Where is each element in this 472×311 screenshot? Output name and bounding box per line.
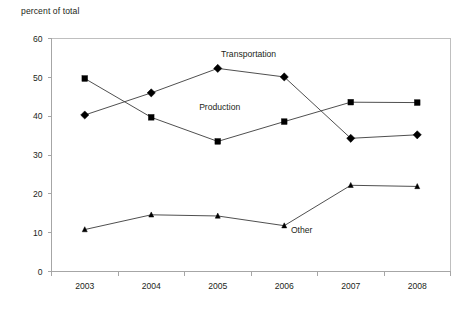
- data-point-transportation: [81, 111, 89, 119]
- series-line-production: [85, 79, 418, 142]
- y-tick-label: 20: [33, 189, 43, 199]
- data-point-production: [348, 99, 354, 105]
- y-tick-label: 40: [33, 111, 43, 121]
- series-line-transportation: [85, 68, 418, 138]
- data-point-production: [82, 76, 88, 82]
- x-axis-ticks: 200320042005200620072008: [52, 272, 451, 291]
- plot-area-border: [52, 39, 451, 272]
- x-tick-label: 2006: [275, 281, 294, 291]
- y-tick-label: 30: [33, 150, 43, 160]
- x-tick-label: 2004: [142, 281, 161, 291]
- data-point-production: [414, 100, 420, 106]
- series-line-other: [85, 185, 418, 229]
- y-tick-label: 60: [33, 34, 43, 44]
- data-point-transportation: [214, 64, 222, 72]
- y-axis-ticks: 0102030405060: [33, 34, 52, 277]
- series-annotation: Production: [199, 102, 240, 112]
- x-tick-label: 2008: [408, 281, 427, 291]
- series-markers: [81, 64, 422, 231]
- y-tick-label: 50: [33, 73, 43, 83]
- series-annotation: Other: [291, 225, 313, 235]
- y-axis-title: percent of total: [21, 6, 79, 16]
- data-point-transportation: [147, 89, 155, 97]
- y-tick-label: 10: [33, 228, 43, 238]
- y-tick-label: 0: [38, 267, 43, 277]
- x-tick-label: 2003: [75, 281, 94, 291]
- series-lines: [85, 68, 418, 229]
- x-tick-label: 2007: [341, 281, 360, 291]
- data-point-production: [215, 139, 221, 145]
- data-point-transportation: [413, 131, 421, 139]
- chart-container: percent of total 0102030405060 200320042…: [0, 0, 472, 311]
- data-point-production: [281, 119, 287, 125]
- x-tick-label: 2005: [208, 281, 227, 291]
- line-chart: 0102030405060 200320042005200620072008 T…: [0, 0, 472, 311]
- data-point-production: [148, 115, 154, 121]
- plot-frame: [52, 39, 451, 272]
- series-annotation: Transportation: [221, 49, 276, 59]
